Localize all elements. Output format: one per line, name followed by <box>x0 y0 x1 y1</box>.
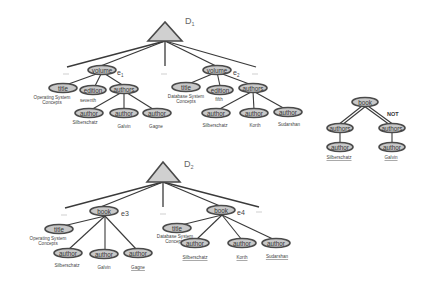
svg-text:author: author <box>95 251 113 258</box>
document-tree-d1: D1 volume e1 title Operating System Conc… <box>34 16 302 129</box>
node-author: author <box>202 109 230 118</box>
author-value: Korth <box>250 123 261 128</box>
svg-text:volume: volume <box>92 67 113 74</box>
svg-text:edition: edition <box>211 87 230 94</box>
node-volume: volume <box>203 66 231 75</box>
svg-text:volume: volume <box>207 67 228 74</box>
edition-value: fifth <box>215 97 223 102</box>
author-value: Silberschatz <box>202 123 228 128</box>
svg-text:title: title <box>181 84 191 91</box>
edition-value: seventh <box>80 98 97 103</box>
svg-text:author: author <box>245 110 263 117</box>
svg-text:authors: authors <box>242 85 263 92</box>
svg-text:edition: edition <box>84 87 103 94</box>
svg-text:authors: authors <box>381 125 402 132</box>
author-value: Sudarshan <box>266 254 289 259</box>
author-value: Silberschatz <box>72 120 98 125</box>
node-author: author <box>274 108 302 117</box>
svg-text:authors: authors <box>329 125 350 132</box>
node-title: title <box>45 225 73 234</box>
svg-text:author: author <box>331 144 349 151</box>
author-value: Silberschatz <box>54 263 80 268</box>
author-value: Korth <box>237 255 248 260</box>
node-title: title <box>49 84 77 93</box>
svg-text:author: author <box>233 240 251 247</box>
node-author: author <box>240 109 268 118</box>
svg-text:title: title <box>54 226 64 233</box>
title-value-line2: Concepts <box>42 100 62 105</box>
svg-text:title: title <box>172 225 182 232</box>
svg-text:author: author <box>383 144 401 151</box>
document-root-triangle <box>148 22 182 41</box>
doc-label-d1: D1 <box>185 16 195 27</box>
node-edition: edition <box>207 86 233 95</box>
node-edition: edition <box>80 86 106 95</box>
node-author: author <box>90 250 118 259</box>
svg-text:author: author <box>186 240 204 247</box>
author-value: Silberschatz <box>182 255 208 260</box>
query-value-galvin: Galvin <box>384 155 397 160</box>
query-node-book: book <box>352 98 378 107</box>
query-tree: book NOT authors authors author author S… <box>326 98 405 161</box>
author-value: Galvin <box>97 265 110 270</box>
svg-text:book: book <box>358 99 373 106</box>
node-author: author <box>143 109 171 118</box>
node-author: author <box>262 239 290 248</box>
node-volume: volume <box>88 66 116 75</box>
node-authors: authors <box>110 85 138 94</box>
node-author: author <box>75 109 103 118</box>
svg-text:author: author <box>267 240 285 247</box>
node-authors: authors <box>239 84 267 93</box>
node-title: title <box>172 83 200 92</box>
element-marker-e3: e3 <box>121 210 129 217</box>
xml-trees-diagram: D1 volume e1 title Operating System Conc… <box>0 0 430 285</box>
node-author: author <box>124 249 152 258</box>
svg-text:authors: authors <box>113 86 134 93</box>
doc-label-d2: D2 <box>184 159 194 170</box>
svg-text:author: author <box>207 110 225 117</box>
author-value: Sudarshan <box>278 122 301 127</box>
svg-text:title: title <box>58 85 68 92</box>
element-marker-e4: e4 <box>237 209 245 216</box>
node-author: author <box>54 249 82 258</box>
node-author: author <box>181 239 209 248</box>
query-node-author: author <box>327 143 353 152</box>
node-book: book <box>207 206 235 215</box>
node-author: author <box>228 239 256 248</box>
node-author: author <box>110 109 138 118</box>
query-node-authors: authors <box>327 124 353 133</box>
node-book: book <box>90 207 118 216</box>
node-title: title <box>163 224 191 233</box>
element-marker-e1: e1 <box>117 69 124 78</box>
author-value: Gagne <box>149 124 163 129</box>
author-value: Gagne <box>131 265 145 270</box>
svg-text:author: author <box>129 250 147 257</box>
svg-text:book: book <box>214 207 229 214</box>
svg-text:author: author <box>148 110 166 117</box>
svg-text:author: author <box>279 109 297 116</box>
document-root-triangle <box>147 162 180 182</box>
svg-text:author: author <box>115 110 133 117</box>
query-value-silberschatz: Silberschatz <box>326 155 352 160</box>
svg-text:author: author <box>59 250 77 257</box>
svg-text:book: book <box>97 208 112 215</box>
title-value-line2: Concepts <box>38 241 58 246</box>
document-tree-d2: D2 book e3 title Operating System Concep… <box>30 159 290 270</box>
query-node-author: author <box>379 143 405 152</box>
query-node-authors-negated: authors <box>379 124 405 133</box>
element-marker-e2: e2 <box>233 69 240 78</box>
title-value-line2: Concepts <box>176 99 196 104</box>
not-label: NOT <box>387 111 399 117</box>
svg-text:author: author <box>80 110 98 117</box>
author-value: Galvin <box>117 124 130 129</box>
